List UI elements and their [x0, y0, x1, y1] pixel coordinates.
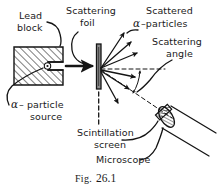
- label-alpha-source-alpha: α: [11, 98, 18, 110]
- scattering-foil: [97, 44, 102, 89]
- leader-lead-block: [47, 22, 61, 46]
- label-scattered-particles-alpha: α: [133, 17, 140, 29]
- label-scattering-angle-line2: angle: [166, 48, 193, 59]
- label-scattered-particles-line2: –particles: [141, 18, 188, 29]
- label-scintillation-line1: Scintillation: [77, 127, 134, 138]
- figure-container: Lead block Scattering foil Scattered α –…: [0, 0, 218, 190]
- scattered-particle-arrows: [101, 33, 137, 103]
- caption-prefix: Fig.: [75, 173, 92, 184]
- alpha-particle-source-marker: [44, 63, 50, 69]
- scattering-angle-arc: [133, 71, 140, 93]
- label-scattering-foil-line1: Scattering: [66, 5, 116, 16]
- label-scattered-particles-line1: Scattered: [146, 5, 193, 16]
- microscope: [155, 104, 216, 156]
- label-scintillation-line2: screen: [94, 139, 126, 150]
- caption-number: 26.1: [96, 172, 116, 184]
- leader-scattered-particles: [127, 30, 138, 33]
- label-scattering-angle-line1: Scattering: [152, 36, 202, 47]
- label-lead-block-line2: block: [17, 22, 43, 33]
- label-microscope: Microscope: [96, 154, 150, 165]
- leader-scattering-angle: [137, 60, 172, 92]
- label-scattering-foil-line2: foil: [80, 17, 95, 28]
- label-alpha-source-line1: – particle: [19, 99, 64, 110]
- label-alpha-source-line2: source: [30, 111, 62, 122]
- label-lead-block-line1: Lead: [19, 10, 42, 21]
- rutherford-scattering-diagram: Lead block Scattering foil Scattered α –…: [0, 0, 218, 190]
- scattered-arrow-4: [101, 70, 135, 77]
- leader-scattering-foil: [72, 32, 88, 65]
